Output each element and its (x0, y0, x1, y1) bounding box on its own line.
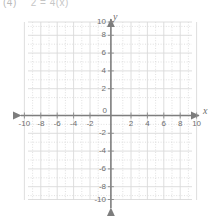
coordinate-plane: -10 -8 -6 -4 -2 2 4 6 8 10 10 8 6 4 2 -2… (0, 0, 221, 218)
coordinate-plane-svg (0, 0, 221, 218)
grid-minor (28, 22, 192, 200)
